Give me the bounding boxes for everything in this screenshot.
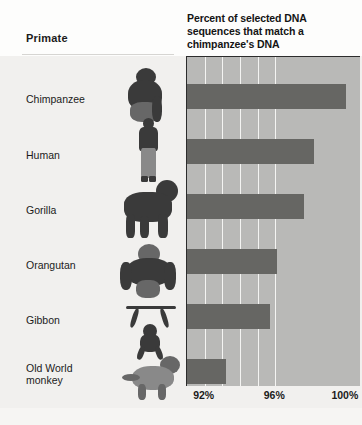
old-world-monkey-photo <box>120 352 182 402</box>
row-label-orangutan: Orangutan <box>26 259 76 271</box>
x-tick-100: 100% <box>331 389 358 401</box>
row-label-gorilla: Gorilla <box>26 204 56 216</box>
bar-chimpanzee <box>187 84 346 109</box>
bar-gibbon <box>187 304 270 329</box>
bottom-margin <box>0 408 362 425</box>
x-tick-92: 92% <box>193 389 214 401</box>
gibbon-photo <box>126 302 178 358</box>
bar-human <box>187 139 314 164</box>
row-label-human: Human <box>26 149 60 161</box>
human-photo <box>128 118 166 184</box>
gorilla-photo <box>114 178 180 240</box>
row-label-chimpanzee: Chimpanzee <box>26 93 85 105</box>
primate-column-header: Primate <box>26 32 68 44</box>
x-tick-96: 96% <box>264 389 285 401</box>
bar-gorilla <box>187 194 304 219</box>
header-divider <box>22 54 174 55</box>
chart-title: Percent of selected DNA sequences that m… <box>187 12 359 51</box>
orangutan-photo <box>118 242 178 300</box>
plot-area <box>186 56 360 386</box>
primate-label-column: Chimpanzee Human Gorilla Orangutan Gibbo… <box>0 56 186 396</box>
header-band: Primate Percent of selected DNA sequence… <box>0 0 362 56</box>
chart-figure: Primate Percent of selected DNA sequence… <box>0 0 362 425</box>
x-axis-tick-labels: 92% 96% 100% <box>186 389 362 405</box>
bar-old-world-monkey <box>187 359 226 384</box>
row-label-gibbon: Gibbon <box>26 314 60 326</box>
row-label-old-world-monkey: Old World monkey <box>26 362 73 386</box>
bar-orangutan <box>187 249 277 274</box>
